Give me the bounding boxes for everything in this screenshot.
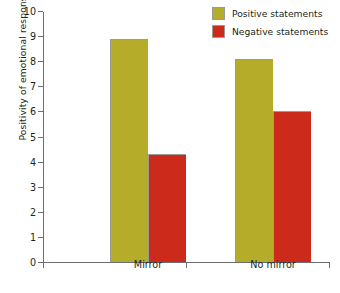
y-axis-tick-label: 8: [30, 56, 36, 67]
y-axis-tick-label: 2: [30, 206, 36, 217]
y-axis-tick-mark: [38, 86, 43, 87]
legend-swatch-icon: [212, 25, 225, 38]
y-axis-tick-label: 6: [30, 106, 36, 117]
y-axis-tick-mark: [38, 187, 43, 188]
plot-area: 012345678910: [43, 12, 330, 263]
bar: [148, 154, 186, 262]
y-axis-tick-label: 4: [30, 156, 36, 167]
x-axis-tick-mark: [329, 263, 330, 268]
y-axis-tick-mark: [38, 237, 43, 238]
y-axis-tick: 8: [43, 61, 44, 62]
y-axis-tick: 9: [43, 36, 44, 37]
y-axis-tick-mark: [38, 212, 43, 213]
bar: [235, 59, 273, 262]
x-axis-tick-label: No mirror: [250, 259, 295, 270]
legend: Positive statementsNegative statements: [212, 7, 328, 43]
y-axis-tick-label: 3: [30, 181, 36, 192]
y-axis-tick: 1: [43, 237, 44, 238]
y-axis-tick: 4: [43, 162, 44, 163]
y-axis-tick-label: 1: [30, 231, 36, 242]
legend-label: Positive statements: [232, 8, 322, 19]
y-axis-tick: 3: [43, 187, 44, 188]
y-axis-tick-label: 7: [30, 81, 36, 92]
bar: [110, 39, 148, 262]
y-axis-title: Positivity of emotional response: [17, 0, 28, 158]
bar-chart: Positivity of emotional response 0123456…: [0, 0, 340, 293]
legend-label: Negative statements: [232, 26, 328, 37]
y-axis-tick: 10: [43, 11, 44, 12]
legend-item: Positive statements: [212, 7, 328, 20]
y-axis-tick-mark: [38, 11, 43, 12]
legend-swatch-icon: [212, 7, 225, 20]
y-axis-tick: 7: [43, 86, 44, 87]
legend-item: Negative statements: [212, 25, 328, 38]
y-axis-line: [43, 12, 44, 263]
y-axis-tick: 5: [43, 137, 44, 138]
y-axis-tick-mark: [38, 61, 43, 62]
y-axis-tick-mark: [38, 36, 43, 37]
y-axis-tick-mark: [38, 137, 43, 138]
y-axis-tick: 2: [43, 212, 44, 213]
y-axis-tick-label: 0: [30, 257, 36, 268]
y-axis-tick-mark: [38, 162, 43, 163]
x-axis-tick-mark: [186, 263, 187, 268]
bar: [273, 111, 311, 262]
y-axis-tick-label: 10: [24, 6, 36, 17]
y-axis-tick: 6: [43, 111, 44, 112]
y-axis-tick-mark: [38, 111, 43, 112]
y-axis-tick-label: 5: [30, 131, 36, 142]
x-axis-tick-mark: [43, 263, 44, 268]
x-axis-tick-label: Mirror: [134, 259, 162, 270]
y-axis-tick-label: 9: [30, 31, 36, 42]
